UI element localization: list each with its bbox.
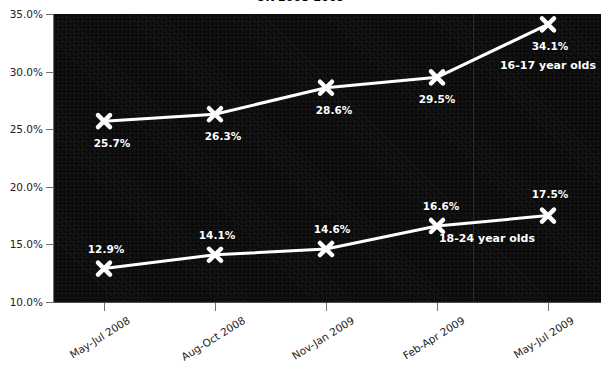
x-tick-mark [437, 303, 438, 311]
data-point-marker [542, 18, 554, 30]
chart-title: UK 2008-2009 [0, 0, 601, 4]
data-point-label: 14.1% [199, 229, 235, 241]
series-annotation: 16-17 year olds [500, 59, 596, 72]
data-point-label: 34.1% [532, 40, 568, 52]
x-tick-mark [326, 303, 327, 311]
x-tick-mark [215, 303, 216, 311]
x-tick-label: Feb-Apr 2009 [401, 314, 467, 361]
data-point-label: 26.3% [205, 130, 241, 142]
y-tick-label: 15.0% [0, 238, 43, 250]
plot-svg [54, 14, 601, 302]
data-point-label: 25.7% [94, 137, 130, 149]
data-point-label: 12.9% [88, 243, 124, 255]
data-point-label: 29.5% [419, 93, 455, 105]
y-tick-mark [46, 187, 54, 188]
line-chart: UK 2008-2009 10.0%15.0%20.0%25.0%30.0%35… [0, 0, 601, 374]
plot-area [54, 14, 601, 302]
x-tick-mark [548, 303, 549, 311]
x-tick-label: May-Jul 2009 [511, 314, 576, 361]
x-axis-line [53, 302, 601, 303]
y-axis-line [53, 14, 54, 303]
y-tick-label: 35.0% [0, 8, 43, 20]
x-tick-label: Aug-Oct 2008 [179, 314, 247, 363]
y-tick-mark [46, 14, 54, 15]
data-point-label: 17.5% [532, 188, 568, 200]
data-point-label: 14.6% [314, 223, 350, 235]
x-tick-label: Nov-Jan 2009 [290, 314, 356, 362]
series-annotation: 18-24 year olds [439, 232, 535, 245]
y-tick-label: 30.0% [0, 66, 43, 78]
y-tick-mark [46, 72, 54, 73]
data-point-label: 28.6% [316, 104, 352, 116]
y-tick-mark [46, 302, 54, 303]
data-point-label: 16.6% [423, 200, 459, 212]
y-tick-mark [46, 244, 54, 245]
y-tick-label: 20.0% [0, 181, 43, 193]
x-tick-mark [104, 303, 105, 311]
x-tick-label: May-Jul 2008 [67, 314, 132, 361]
y-tick-mark [46, 129, 54, 130]
y-tick-label: 10.0% [0, 296, 43, 308]
y-tick-label: 25.0% [0, 123, 43, 135]
